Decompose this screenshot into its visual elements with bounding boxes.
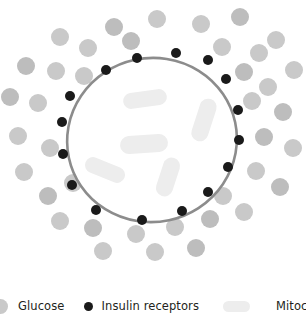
insulin-receptor — [177, 206, 187, 216]
mitochondria-capsule-swatch — [223, 301, 250, 312]
legend-label-glucose: Glucose — [18, 301, 65, 313]
glucose-particle — [235, 203, 253, 221]
insulin-receptor — [203, 187, 213, 197]
glucose-particle — [122, 32, 140, 50]
insulin-receptor — [67, 180, 77, 190]
insulin-receptor — [233, 105, 243, 115]
glucose-particle — [187, 239, 205, 257]
receptor-dot-swatch — [84, 302, 93, 311]
legend: Glucose Insulin receptors Mitochondria — [0, 292, 306, 321]
glucose-particle — [79, 39, 97, 57]
legend-item-mitochondria: Mitochondria — [223, 301, 306, 313]
glucose-particle — [259, 78, 277, 96]
glucose-particle — [47, 62, 65, 80]
insulin-receptor — [137, 215, 147, 225]
glucose-particle — [41, 139, 59, 157]
glucose-particle — [39, 187, 57, 205]
cell-diagram-canvas — [0, 0, 306, 290]
cell-diagram: Glucose Insulin receptors Mitochondria — [0, 0, 306, 321]
legend-label-mitochondria: Mitochondria — [276, 301, 306, 313]
mitochondrion — [119, 133, 168, 154]
glucose-particle — [146, 243, 164, 261]
glucose-particle — [15, 163, 33, 181]
glucose-particle — [9, 127, 27, 145]
glucose-particle — [247, 162, 265, 180]
glucose-particle — [231, 8, 249, 26]
glucose-particle — [235, 63, 253, 81]
glucose-particle — [255, 128, 273, 146]
glucose-particle — [284, 139, 302, 157]
glucose-particle — [192, 15, 210, 33]
glucose-particle — [213, 38, 231, 56]
insulin-receptor — [65, 91, 75, 101]
insulin-receptor — [101, 65, 111, 75]
glucose-particle — [250, 44, 268, 62]
glucose-particle — [17, 57, 35, 75]
insulin-receptor — [171, 48, 181, 58]
glucose-particle — [267, 31, 285, 49]
legend-item-glucose: Glucose — [0, 299, 65, 314]
insulin-receptor — [221, 74, 231, 84]
insulin-receptor — [58, 149, 68, 159]
glucose-particle — [285, 61, 303, 79]
glucose-particle — [201, 210, 219, 228]
insulin-receptor — [132, 53, 142, 63]
glucose-particle — [271, 178, 289, 196]
glucose-particle — [105, 18, 123, 36]
glucose-particle — [274, 103, 292, 121]
insulin-receptor — [57, 117, 67, 127]
glucose-particle — [243, 92, 261, 110]
glucose-particle — [148, 10, 166, 28]
legend-item-insulin-receptors: Insulin receptors — [84, 301, 200, 313]
glucose-particle — [29, 94, 47, 112]
insulin-receptor — [91, 205, 101, 215]
glucose-particle — [75, 67, 93, 85]
glucose-particle — [51, 212, 69, 230]
insulin-receptor — [203, 55, 213, 65]
insulin-receptor — [234, 135, 244, 145]
glucose-particle — [1, 88, 19, 106]
glucose-dot-swatch — [0, 299, 8, 314]
glucose-particle — [127, 225, 145, 243]
legend-label-insulin-receptors: Insulin receptors — [102, 301, 200, 313]
glucose-particle — [94, 242, 112, 260]
glucose-particle — [51, 28, 69, 46]
glucose-particle — [84, 219, 102, 237]
insulin-receptor — [223, 162, 233, 172]
